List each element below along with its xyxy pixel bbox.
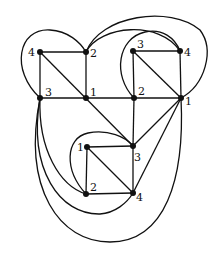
label-tr1: 1	[185, 95, 192, 108]
edge-tr1-b4	[133, 98, 181, 193]
node-tr4	[177, 48, 183, 54]
edge-tr2-b3	[133, 98, 134, 146]
node-tl4	[37, 49, 43, 55]
node-tl2	[83, 49, 89, 55]
node-tr3	[130, 48, 136, 54]
label-tr2: 2	[138, 85, 145, 98]
label-tl2: 2	[90, 47, 97, 60]
label-tl3: 3	[45, 86, 52, 99]
label-tl1: 1	[90, 86, 97, 99]
node-tl1	[83, 95, 89, 101]
node-b3	[130, 143, 136, 149]
straight-edges	[40, 51, 181, 194]
node-labels: 4 2 3 1 3 4 2 1 1 3 2 4	[28, 38, 192, 204]
node-b1	[84, 144, 90, 150]
label-tl4: 4	[28, 46, 35, 59]
label-tr4: 4	[184, 46, 191, 59]
edge-tr4-tr1	[180, 51, 181, 98]
label-b1: 1	[77, 141, 84, 154]
node-tr2	[131, 95, 137, 101]
label-b4: 4	[136, 191, 143, 204]
label-b3: 3	[134, 151, 141, 164]
label-b2: 2	[90, 181, 97, 194]
edge-b1-b3	[87, 146, 133, 147]
node-b2	[83, 191, 89, 197]
edge-b1-b2	[86, 147, 87, 194]
edge-tr1-b3	[133, 98, 181, 146]
node-tr1	[178, 95, 184, 101]
node-tl3	[37, 95, 43, 101]
label-tr3: 3	[137, 38, 144, 51]
edge-tr3-tr2	[133, 51, 134, 98]
graph-diagram: 4 2 3 1 3 4 2 1 1 3 2 4	[0, 0, 215, 254]
